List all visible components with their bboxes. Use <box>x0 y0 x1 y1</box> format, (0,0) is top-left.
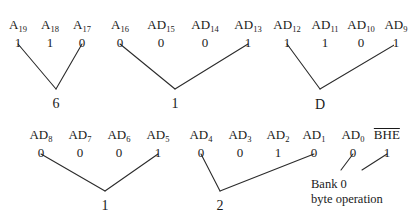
signal-label: A17 <box>73 18 91 33</box>
connector-line-left <box>120 44 175 89</box>
bit-value: 1 <box>47 36 54 49</box>
signal-index: 7 <box>87 134 91 144</box>
signal-label: BHE <box>374 128 400 141</box>
signal-index: 16 <box>121 24 130 34</box>
signal-index: 14 <box>210 24 219 34</box>
signal-label: AD4 <box>189 128 212 143</box>
signal-label: AD10 <box>347 18 374 33</box>
signal-label: AD11 <box>311 18 338 33</box>
signal-index: 13 <box>253 24 262 34</box>
bit-value: 0 <box>311 146 318 159</box>
signal-label: AD15 <box>147 18 174 33</box>
connector-line-right <box>220 154 314 191</box>
signal-index: 2 <box>285 134 289 144</box>
signal-index: 15 <box>166 24 175 34</box>
bit-value: 1 <box>384 146 391 159</box>
connector-line-right <box>320 44 394 89</box>
bit-value: 0 <box>350 146 357 159</box>
bit-value: 0 <box>358 36 365 49</box>
signal-label: AD1 <box>302 128 325 143</box>
connector-line-left <box>18 44 56 89</box>
signal-label: AD6 <box>107 128 130 143</box>
bit-value: 1 <box>284 36 291 49</box>
signal-index: 5 <box>165 134 169 144</box>
signal-index: 12 <box>292 24 301 34</box>
hex-digit: D <box>315 98 325 112</box>
signal-index: 1 <box>321 134 325 144</box>
signal-label: AD7 <box>68 128 91 143</box>
bit-value: 1 <box>15 36 22 49</box>
bit-value: 0 <box>38 146 45 159</box>
signal-label: AD12 <box>273 18 300 33</box>
signal-label: A16 <box>111 18 129 33</box>
signal-index: 0 <box>360 134 364 144</box>
bit-value: 0 <box>79 36 86 49</box>
overline-signal-name: BHE <box>374 128 400 141</box>
hex-digit: 1 <box>102 199 109 213</box>
signal-index: 8 <box>48 134 52 144</box>
signal-index: 3 <box>247 134 251 144</box>
signal-label: AD13 <box>234 18 261 33</box>
connector-line-left <box>41 154 105 191</box>
bit-value: 0 <box>77 146 84 159</box>
bit-value: 1 <box>322 36 329 49</box>
signal-label: A18 <box>41 18 59 33</box>
hex-digit: 6 <box>53 97 60 111</box>
signal-index: 9 <box>403 24 407 34</box>
signal-index: 11 <box>330 24 338 34</box>
bit-value: 1 <box>155 146 162 159</box>
signal-label: AD2 <box>266 128 289 143</box>
signal-label: AD3 <box>228 128 251 143</box>
bank-note-line2: byte operation <box>311 192 383 206</box>
signal-label: AD8 <box>29 128 52 143</box>
signal-label: AD9 <box>384 18 407 33</box>
signal-label: AD14 <box>191 18 218 33</box>
bit-value: 0 <box>198 146 205 159</box>
hex-digit: 2 <box>217 199 224 213</box>
bit-value: 0 <box>117 36 124 49</box>
signal-index: 17 <box>83 24 92 34</box>
bit-value: 1 <box>275 146 282 159</box>
connector-line-left <box>287 44 320 89</box>
signal-index: 10 <box>366 24 375 34</box>
bit-value: 0 <box>158 36 165 49</box>
hex-digit: 1 <box>172 97 179 111</box>
signal-index: 18 <box>51 24 60 34</box>
signal-index: 19 <box>19 24 28 34</box>
connector-line-right <box>56 44 82 89</box>
connector-line-right <box>175 44 248 89</box>
signal-index: 6 <box>126 134 130 144</box>
bit-value: 0 <box>237 146 244 159</box>
bit-value: 0 <box>116 146 123 159</box>
signal-index: 4 <box>208 134 212 144</box>
signal-label: AD0 <box>341 128 364 143</box>
bit-value: 0 <box>202 36 209 49</box>
bit-value: 1 <box>393 36 400 49</box>
bit-value: 1 <box>245 36 252 49</box>
bank-note-line1: Bank 0 <box>311 177 347 191</box>
connector-line-right <box>105 154 158 191</box>
signal-label: A19 <box>9 18 27 33</box>
signal-label: AD5 <box>146 128 169 143</box>
